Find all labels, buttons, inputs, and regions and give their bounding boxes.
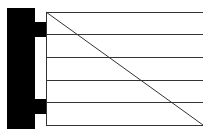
diagram-canvas <box>0 0 203 129</box>
top-tab <box>34 22 46 37</box>
bottom-tab <box>34 99 46 114</box>
vertical-black-bar <box>7 8 35 129</box>
